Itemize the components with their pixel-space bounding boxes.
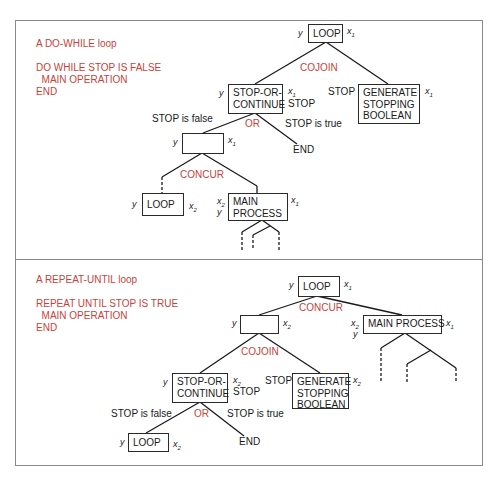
input-var: y <box>232 318 237 328</box>
loop-node: LOOP <box>298 276 340 297</box>
stop-or-continue-node: STOP-OR- CONTINUE <box>172 373 228 403</box>
input-var: y <box>132 199 137 209</box>
or-label: OR <box>194 408 209 419</box>
input-var: y <box>353 329 358 339</box>
input-var: y <box>173 137 178 147</box>
stop-or-continue-node: STOP-OR- CONTINUE <box>228 84 283 114</box>
pseudocode-line: DO WHILE STOP IS FALSE <box>36 62 161 74</box>
pseudocode-line: REPEAT UNTIL STOP IS TRUE <box>36 298 178 310</box>
cojoin-label: COJOIN <box>300 62 338 73</box>
stop-input-label: STOP <box>265 375 292 386</box>
loop-child-node: LOOP <box>142 193 184 216</box>
input-var: y <box>219 88 224 98</box>
loop-node: LOOP <box>308 24 343 43</box>
pseudocode-line: END <box>36 322 57 334</box>
cojoin-label: COJOIN <box>241 346 279 357</box>
end-node: END <box>293 144 314 155</box>
output-var: x2 <box>189 201 197 213</box>
input-var: y <box>120 437 125 447</box>
output-var: x1 <box>288 86 296 98</box>
pseudocode-line: MAIN OPERATION <box>36 74 128 86</box>
output-var: x1 <box>291 195 299 207</box>
concur-label: CONCUR <box>180 169 224 180</box>
output-var: x2 <box>283 318 291 330</box>
panel-title: A REPEAT-UNTIL loop <box>36 274 137 286</box>
panel-title: A DO-WHILE loop <box>36 38 117 50</box>
end-node: END <box>239 436 260 447</box>
branch-true-label: STOP is true <box>227 408 284 419</box>
empty-node <box>240 315 279 334</box>
empty-node <box>182 133 224 154</box>
output-var: x1 <box>228 135 236 147</box>
branch-true-label: STOP is true <box>285 118 342 129</box>
output-var: x1 <box>446 318 454 330</box>
main-process-node: MAIN PROCESS <box>228 193 288 221</box>
output-var: x1 <box>347 26 355 38</box>
input-var: y <box>217 207 222 217</box>
figure: A DO-WHILE loop DO WHILE STOP IS FALSE M… <box>0 0 498 490</box>
pseudocode-line: END <box>36 86 57 98</box>
output-var: x2 <box>353 375 361 387</box>
loop-child-node: LOOP <box>128 433 169 452</box>
or-label: OR <box>245 118 260 129</box>
stop-input-label: STOP <box>328 86 355 97</box>
pseudocode-line: MAIN OPERATION <box>36 310 128 322</box>
output-var: x1 <box>344 279 352 291</box>
input-var: y <box>289 280 294 290</box>
stop-output-label: STOP <box>288 98 315 109</box>
branch-false-label: STOP is false <box>111 408 172 419</box>
main-process-node: MAIN PROCESS <box>363 315 442 334</box>
stop-output-label: STOP <box>233 386 260 397</box>
output-var: x1 <box>425 86 433 98</box>
branch-false-label: STOP is false <box>152 113 213 124</box>
input-var: y <box>298 28 303 38</box>
output-var: x2 <box>173 439 181 451</box>
input-var: y <box>163 377 168 387</box>
generate-stopping-boolean-node: GENERATE STOPPING BOOLEAN <box>358 84 420 124</box>
generate-stopping-boolean-node: GENERATE STOPPING BOOLEAN <box>292 373 349 409</box>
concur-label: CONCUR <box>299 302 343 313</box>
